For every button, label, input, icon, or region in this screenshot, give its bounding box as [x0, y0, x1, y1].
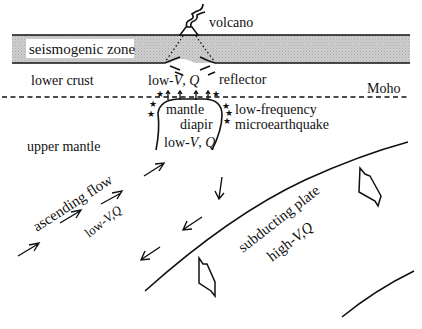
volcano-label: volcano — [209, 15, 253, 30]
star-icon: ★ — [212, 89, 220, 99]
plate-motion-arrow-icon — [359, 168, 381, 206]
star-icon: ★ — [156, 89, 164, 99]
lf-quake-label-line2: microearthquake — [235, 117, 329, 132]
reflector-label: reflector — [219, 72, 267, 87]
arrow-up-right-icon — [18, 243, 39, 256]
lf-quake-label-line1: low-frequency — [235, 102, 317, 117]
seismogenic-zone-label: seismogenic zone — [29, 41, 136, 57]
arrow-down-left-icon — [141, 247, 160, 260]
star-icon: ★ — [149, 99, 157, 109]
volcano-plume-icon — [186, 4, 203, 27]
star-icon: ★ — [147, 109, 155, 119]
ascending-low-vq-label: low-V,Q — [82, 202, 125, 241]
ascending-flow-arrows — [18, 163, 164, 256]
star-icon: ★ — [223, 116, 231, 126]
plate-motion-arrow-icon — [199, 258, 215, 296]
lower-crust-label: lower crust — [31, 73, 94, 88]
arrow-up-right-icon — [101, 191, 122, 204]
arrow-up-right-icon — [144, 163, 164, 176]
seismogenic-zone-layer: seismogenic zone — [12, 30, 410, 63]
diapir-label-line2: diapir — [180, 117, 213, 132]
arrow-down-left-icon — [183, 217, 202, 230]
diapir-low-vq-label: low-V, Q — [164, 135, 215, 150]
volcano: volcano — [180, 4, 253, 35]
upper-mantle-label: upper mantle — [27, 139, 100, 154]
moho-label: Moho — [367, 81, 400, 96]
subducting-plate-bottom — [342, 271, 414, 317]
return-flow-arrows — [141, 177, 224, 260]
volcano-cone-icon — [180, 27, 198, 35]
crust-low-vq-label: low-V, Q — [148, 73, 199, 88]
diapir-label-line1: mantle — [166, 102, 204, 117]
subduction-zone-diagram: seismogenic zone volcano lower crust low… — [0, 0, 422, 329]
arrow-down-icon — [215, 177, 224, 199]
